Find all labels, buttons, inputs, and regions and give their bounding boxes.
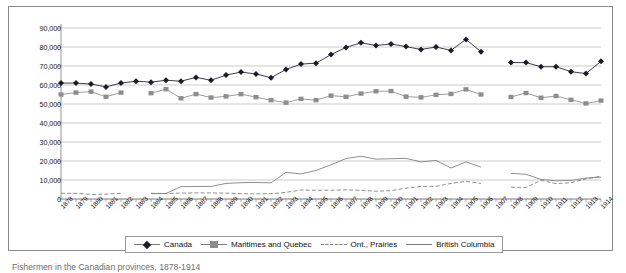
chart-figure: 010,00020,00030,00040,00050,00060,00070,… [0, 0, 626, 273]
legend-item[interactable]: Canada [134, 240, 192, 249]
plot-area: 010,00020,00030,00040,00050,00060,00070,… [9, 7, 614, 252]
y-axis-tick-label: 0 [57, 195, 61, 204]
y-axis-labels: 010,00020,00030,00040,00050,00060,00070,… [19, 7, 61, 252]
y-axis-tick-label: 40,000 [40, 119, 61, 128]
y-axis-tick-label: 70,000 [40, 62, 61, 71]
chart-canvas [9, 7, 614, 252]
legend-label: Maritimes and Quebec [231, 240, 311, 249]
legend-label: Canada [164, 240, 192, 249]
diamond-marker-icon [134, 240, 160, 249]
y-axis-tick-label: 90,000 [40, 24, 61, 33]
y-axis-tick-label: 80,000 [40, 43, 61, 52]
y-axis-tick-label: 20,000 [40, 157, 61, 166]
legend-item[interactable]: British Columbia [406, 240, 494, 249]
legend-item[interactable]: Ont., Prairies [321, 240, 398, 249]
y-axis-tick-label: 30,000 [40, 138, 61, 147]
legend-label: Ont., Prairies [351, 240, 398, 249]
figure-caption: Fishermen in the Canadian provinces, 187… [12, 262, 200, 272]
chart-legend: CanadaMaritimes and QuebecOnt., Prairies… [125, 236, 503, 253]
legend-item[interactable]: Maritimes and Quebec [201, 240, 311, 249]
chart-frame: 010,00020,00030,00040,00050,00060,00070,… [8, 6, 613, 251]
y-axis-tick-label: 10,000 [40, 176, 61, 185]
square-marker-icon [201, 240, 227, 249]
y-axis-tick-label: 60,000 [40, 81, 61, 90]
y-axis-tick-label: 50,000 [40, 100, 61, 109]
dashed-line-marker-icon [321, 240, 347, 249]
legend-label: British Columbia [436, 240, 494, 249]
solid-line-marker-icon [406, 240, 432, 249]
